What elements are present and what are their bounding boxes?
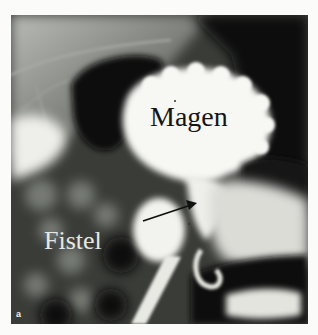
stomach-label: Magen	[150, 103, 228, 131]
xray-illustration	[11, 15, 308, 324]
xray-image	[11, 15, 308, 324]
panel-letter: a	[16, 309, 21, 319]
fistula-label: Fistel	[44, 228, 102, 254]
